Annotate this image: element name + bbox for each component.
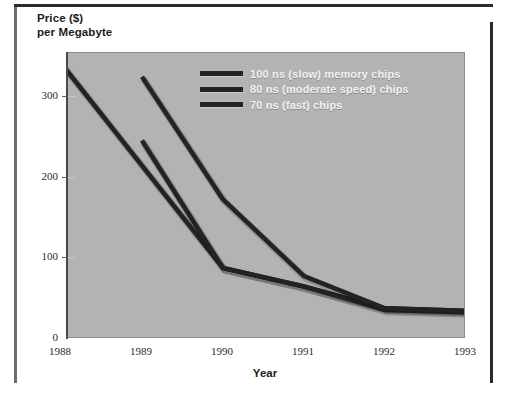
x-axis-tick-label: 1990	[200, 345, 244, 357]
x-axis-title: Year	[0, 367, 506, 379]
legend-label: 80 ns (moderate speed) chips	[250, 83, 409, 95]
legend: 100 ns (slow) memory chips 80 ns (modera…	[200, 67, 409, 114]
page-rule-top	[14, 4, 493, 7]
x-axis-tick-label: 1991	[281, 345, 325, 357]
legend-item: 100 ns (slow) memory chips	[200, 67, 409, 81]
legend-swatch-icon	[200, 102, 243, 107]
x-axis-tick-label: 1993	[443, 345, 487, 357]
y-axis-tick-mark	[68, 177, 75, 178]
y-axis-tick-label: 200	[28, 170, 58, 182]
page-rule-right	[490, 22, 493, 383]
legend-item: 70 ns (fast) chips	[200, 98, 409, 112]
y-axis-title-line1: Price ($)	[37, 12, 83, 24]
x-axis-tick-label: 1992	[362, 345, 406, 357]
x-axis-tick-label: 1989	[119, 345, 163, 357]
y-axis-tick-mark	[62, 257, 67, 258]
y-axis-tick-mark	[68, 96, 75, 97]
y-axis-tick-label: 0	[28, 331, 58, 343]
legend-label: 70 ns (fast) chips	[250, 99, 343, 111]
x-axis-title-label: Year	[253, 367, 277, 379]
chart-page: Price ($)per Megabyte 100 ns (slow) memo…	[0, 0, 506, 401]
plot-area: 100 ns (slow) memory chips 80 ns (modera…	[67, 52, 465, 338]
y-axis-tick-mark	[62, 96, 67, 97]
y-axis-tick-mark	[68, 257, 75, 258]
y-axis-tick-mark	[62, 177, 67, 178]
page-rule-left	[14, 7, 17, 383]
legend-swatch-icon	[200, 71, 243, 76]
y-axis-title: Price ($)per Megabyte	[37, 12, 112, 39]
legend-item: 80 ns (moderate speed) chips	[200, 83, 409, 97]
y-axis-tick-label: 300	[28, 89, 58, 101]
legend-label: 100 ns (slow) memory chips	[250, 68, 401, 80]
x-axis-tick-label: 1988	[38, 345, 82, 357]
y-axis-tick-label: 100	[28, 250, 58, 262]
y-axis-title-line2: per Megabyte	[37, 26, 112, 38]
legend-swatch-icon	[200, 87, 243, 92]
